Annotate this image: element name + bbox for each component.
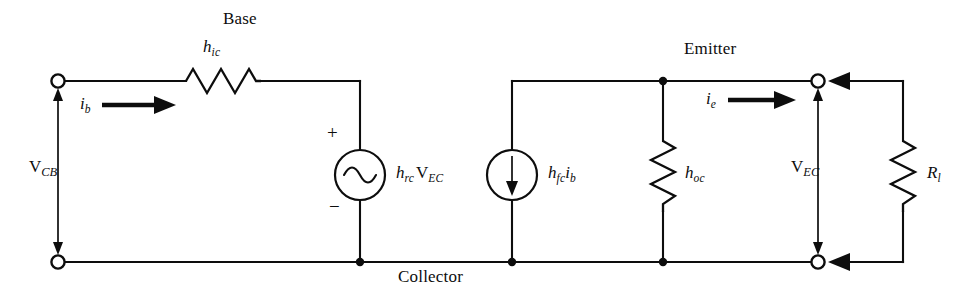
- voltage-vcb-label-sub: CB: [41, 165, 57, 179]
- current-source-i-sub: b: [570, 172, 576, 184]
- current-arrow-ie: [728, 91, 796, 109]
- resistor-hic-label: hic: [203, 38, 220, 58]
- resistor-hoc-zigzag: [651, 141, 675, 212]
- emitter-label: Emitter: [684, 40, 736, 57]
- voltage-source-v-sub: EC: [428, 172, 443, 184]
- resistor-hic-zigzag: [186, 69, 261, 93]
- current-ie-label: ie: [706, 90, 716, 110]
- current-source-gain-sub: fc: [557, 172, 566, 184]
- voltage-source-hrc-vec: [335, 150, 385, 200]
- voltage-source-plus-sign: +: [327, 123, 338, 142]
- ie-arrow-head: [774, 91, 796, 109]
- current-ib-label: ib: [80, 95, 90, 115]
- current-ib-label-sub: b: [85, 103, 91, 115]
- vcb-arrow-head-up: [53, 88, 63, 101]
- vcb-arrow-head-down: [53, 242, 63, 255]
- junction-dot-source-bottom: [356, 258, 364, 266]
- base-label: Base: [223, 10, 257, 27]
- circuit-schematic-canvas: [0, 0, 969, 301]
- junction-dot-hoc-top: [659, 77, 667, 85]
- voltage-source-minus-sign: −: [329, 197, 340, 216]
- input-branch-wires: [66, 81, 360, 262]
- current-arrow-ib: [102, 96, 176, 114]
- collector-label: Collector: [398, 268, 463, 285]
- resistor-hoc-label: hoc: [685, 164, 705, 184]
- voltage-vcb-label: VCB: [29, 158, 57, 179]
- resistor-rl-label: Rl: [927, 164, 941, 184]
- voltage-source-v-main: V: [416, 163, 428, 182]
- current-ie-label-sub: e: [711, 98, 716, 110]
- voltage-vec-label: VEC: [791, 158, 819, 179]
- resistor-hoc-label-main: h: [685, 163, 694, 182]
- current-source-label: hfcib: [548, 164, 576, 184]
- voltage-vec-label-main: V: [791, 157, 803, 176]
- voltage-source-gain-main: h: [396, 163, 405, 182]
- resistor-hic-label-sub: ic: [212, 46, 221, 58]
- resistor-hoc: [651, 141, 675, 212]
- load-branch-wires: [828, 72, 903, 271]
- voltage-source-label: hrcVEC: [396, 164, 443, 184]
- load-bottom-arrow-head: [828, 253, 850, 271]
- voltage-vcb-label-main: V: [29, 157, 41, 176]
- resistor-hoc-label-sub: oc: [694, 172, 705, 184]
- base-terminal[interactable]: [51, 74, 64, 87]
- vec-arrow-head-down: [813, 242, 823, 255]
- resistor-rl-zigzag: [891, 141, 915, 212]
- resistor-hic-label-main: h: [203, 37, 212, 56]
- vec-arrow-head-up: [813, 88, 823, 101]
- current-source-hfc-ib: [487, 150, 537, 200]
- collector-terminal-left[interactable]: [51, 255, 64, 268]
- resistor-rl-label-sub: l: [937, 172, 940, 184]
- resistor-hic: [186, 69, 261, 93]
- circuit-diagram: Base Emitter Collector hic ib VCB + − hr…: [0, 0, 969, 301]
- resistor-rl: [891, 141, 915, 212]
- voltage-source-gain-sub: rc: [405, 172, 415, 184]
- emitter-terminal[interactable]: [811, 74, 824, 87]
- current-source-gain-main: h: [548, 163, 557, 182]
- ib-arrow-head: [154, 96, 176, 114]
- collector-rail-wires: [66, 258, 810, 266]
- collector-terminal-right[interactable]: [811, 255, 824, 268]
- load-top-arrow-head: [828, 72, 850, 90]
- resistor-rl-label-main: R: [927, 163, 937, 182]
- voltage-vec-label-sub: EC: [803, 165, 819, 179]
